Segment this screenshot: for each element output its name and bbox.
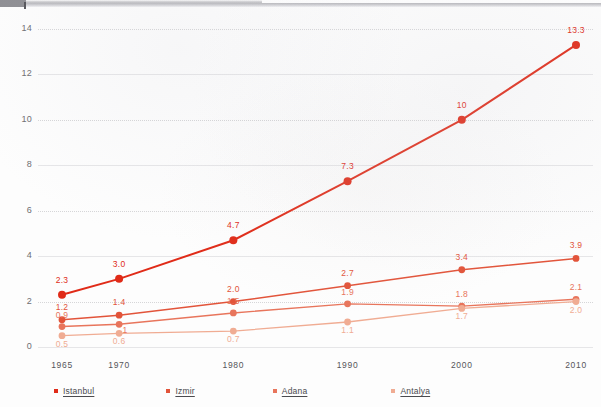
data-point-istanbul-2010[interactable] [572,41,580,49]
value-label-antalya-1965: 0.5 [56,339,69,349]
value-label-izmir-1970: 1.4 [113,297,126,307]
legend-item-adana[interactable]: Adana [273,386,308,396]
value-label-izmir-1980: 2.0 [227,284,240,294]
value-label-istanbul-1970: 3.0 [113,259,126,269]
legend-swatch-icon [273,389,277,393]
value-label-istanbul-2000: 10 [457,100,467,110]
data-point-adana-1990[interactable] [344,300,351,307]
value-label-izmir-2010: 3.9 [570,240,583,250]
data-point-izmir-1970[interactable] [116,312,123,319]
legend-label: Antalya [400,386,430,396]
value-label-istanbul-1990: 7.3 [341,161,354,171]
legend-item-antalya[interactable]: Antalya [391,386,430,396]
value-label-antalya-1990: 1.1 [341,325,354,335]
legend-swatch-icon [166,389,170,393]
data-point-adana-1970[interactable] [116,321,123,328]
value-label-izmir-1990: 2.7 [341,268,354,278]
legend-label: Istanbul [63,386,94,396]
value-label-adana-1980: 1.5 [227,296,240,306]
data-point-istanbul-1980[interactable] [229,236,237,244]
series-line-istanbul [62,45,576,295]
legend-swatch-icon [54,389,58,393]
value-label-adana-1965: 0.9 [56,310,69,320]
line-chart: 02468101214 196519701980199020002010 2.3… [0,0,601,407]
data-point-izmir-2010[interactable] [573,255,580,262]
value-label-antalya-1980: 0.7 [227,334,240,344]
legend-label: Adana [282,386,308,396]
data-point-istanbul-1990[interactable] [344,177,352,185]
value-label-izmir-2000: 3.4 [455,252,468,262]
data-point-istanbul-1970[interactable] [115,275,123,283]
value-label-istanbul-1980: 4.7 [227,220,240,230]
data-point-adana-1965[interactable] [59,323,66,330]
value-label-adana-1970: 1 [123,325,128,335]
value-label-adana-2010: 2.1 [570,282,583,292]
value-label-antalya-2000: 1.7 [455,311,468,321]
series-line-izmir [62,258,576,319]
data-point-istanbul-2000[interactable] [458,116,466,124]
data-point-adana-1980[interactable] [230,310,237,317]
legend-item-izmir[interactable]: Izmir [166,386,194,396]
data-point-istanbul-1965[interactable] [58,291,66,299]
value-label-adana-2000: 1.8 [455,289,468,299]
value-label-adana-1990: 1.9 [341,287,354,297]
data-point-izmir-2000[interactable] [458,266,465,273]
chart-legend: IstanbulIzmirAdanaAntalya [54,386,430,396]
value-label-antalya-1970: 0.6 [113,336,126,346]
series-lines [0,0,601,407]
legend-swatch-icon [391,389,395,393]
value-label-istanbul-1965: 2.3 [56,275,69,285]
legend-label: Izmir [175,386,194,396]
value-label-antalya-2010: 2.0 [570,305,583,315]
legend-item-istanbul[interactable]: Istanbul [54,386,94,396]
value-label-istanbul-2010: 13.3 [567,25,585,35]
